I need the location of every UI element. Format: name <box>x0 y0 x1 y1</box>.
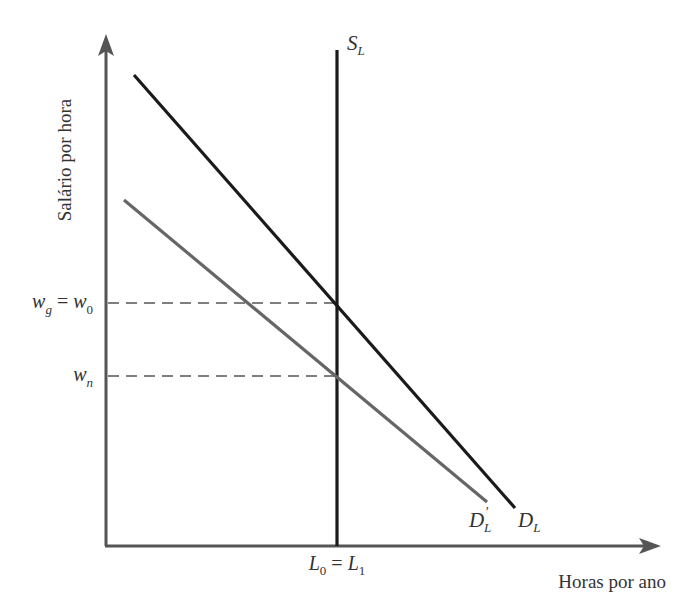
demand-curve-dl-prime <box>124 200 487 502</box>
y-axis-title: Salário por hora <box>54 98 75 221</box>
svg-text:D: D <box>468 508 484 532</box>
demand-curve-dl <box>134 75 515 508</box>
y-tick-wg-w0: wg = w0 <box>32 290 93 317</box>
curves <box>124 50 515 546</box>
y-tick-wn: wn <box>73 363 93 390</box>
x-axis-title: Horas por ano <box>558 571 666 592</box>
svg-text:L: L <box>483 520 491 535</box>
label-sl: SL <box>347 31 365 58</box>
reference-lines <box>108 303 337 376</box>
x-tick-l0-l1: L0 = L1 <box>308 552 366 578</box>
axes <box>98 34 661 554</box>
label-dl: DL <box>517 508 540 535</box>
label-dl-prime: D ′ L <box>468 505 491 535</box>
labor-market-diagram: Salário por hora Horas por ano SL DL D ′… <box>0 0 686 603</box>
svg-text:′: ′ <box>485 505 489 520</box>
